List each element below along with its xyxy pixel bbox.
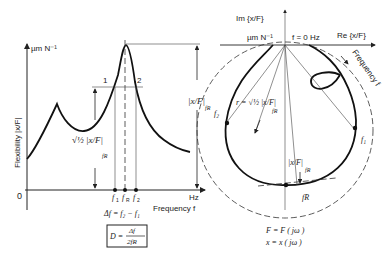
peak-label: |x/F| xyxy=(188,96,205,106)
point-1: 1 xyxy=(103,76,108,85)
delta-f-equation: Δf = f₂ − f₁ xyxy=(103,209,140,218)
f0-label: f = 0 Hz xyxy=(292,33,320,42)
force-equation: F = F ( jω ) xyxy=(265,226,305,235)
f1-point xyxy=(353,126,357,130)
frf-diagram: µm N⁻¹ 0 Hz Frequency f Flexibility |x/F… xyxy=(0,0,390,262)
f2-point xyxy=(225,121,229,125)
f1-dot xyxy=(113,188,117,192)
x-axis-label: Frequency f xyxy=(153,204,196,213)
f2-label: f₂ xyxy=(214,109,219,118)
response-curve xyxy=(27,45,190,159)
frequency-arrow xyxy=(341,56,348,64)
re-label: Re {x/F} xyxy=(337,31,366,40)
radius-arrow xyxy=(255,120,260,133)
unit-label: µm N⁻¹ xyxy=(247,33,273,42)
f2-sub: 2 xyxy=(137,197,140,203)
displacement-equation: x = x ( jω ) xyxy=(265,238,302,247)
f1-label: f₁ xyxy=(361,135,366,144)
fr-point xyxy=(284,183,288,187)
y-axis-label: Flexibility |x/F| xyxy=(13,118,22,168)
f1-ray xyxy=(285,45,355,130)
nyquist-plot: Im {x/F} Re {x/F} µm N⁻¹ f = 0 Hz Freque… xyxy=(197,10,382,247)
nyquist-loop xyxy=(311,72,340,88)
radius-label: r = √½ |x/F| xyxy=(236,98,276,107)
magnitude-label: |x/F| xyxy=(288,158,303,167)
damping-lhs: D = xyxy=(109,232,123,241)
point-2: 2 xyxy=(137,76,142,85)
f1-sub: 1 xyxy=(116,197,119,203)
fr-sub: R xyxy=(126,197,130,203)
f2-dot xyxy=(134,188,138,192)
y-unit: µm N⁻¹ xyxy=(31,44,57,53)
flexibility-plot: µm N⁻¹ 0 Hz Frequency f Flexibility |x/F… xyxy=(13,40,211,247)
damping-num: Δf xyxy=(128,227,136,235)
x-unit: Hz xyxy=(189,193,199,202)
frequency-arrow-label: Frequency f xyxy=(350,48,382,88)
origin-label: 0 xyxy=(17,191,22,201)
radius-sub: fR xyxy=(272,108,278,114)
half-power-label: √½ |x/F| xyxy=(72,135,103,145)
magnitude-sub: fR xyxy=(305,167,311,173)
fr-label: fR xyxy=(302,193,309,202)
peak-sub: fR xyxy=(205,105,211,111)
damping-den: 2fR xyxy=(127,238,137,246)
fr-dot xyxy=(123,188,127,192)
im-label: Im {x/F} xyxy=(236,14,264,23)
half-power-sub: fR xyxy=(102,153,108,159)
